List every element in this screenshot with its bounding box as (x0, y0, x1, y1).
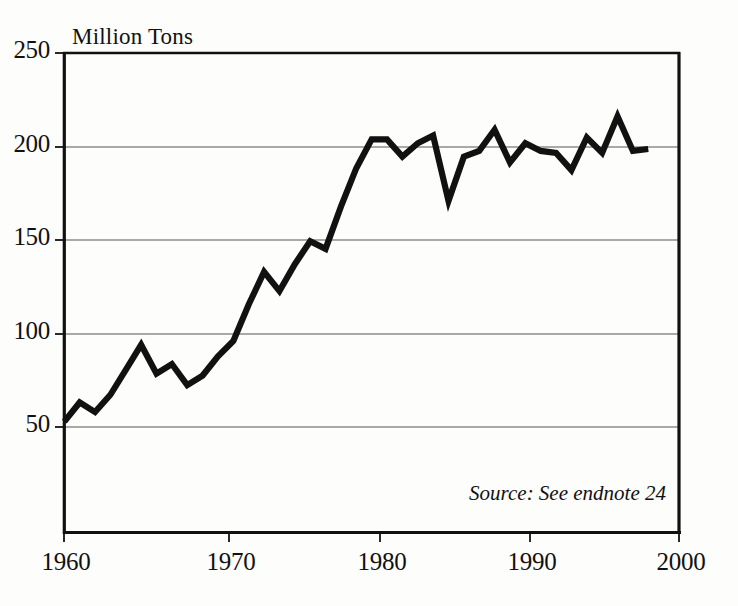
x-axis-label-1960: 1960 (11, 548, 121, 576)
line-chart: Million Tons (0, 0, 738, 606)
chart-frame (63, 52, 681, 534)
y-axis-label-50: 50 (0, 410, 50, 438)
y-axis-ticks (55, 53, 64, 427)
data-series-line (64, 116, 648, 421)
y-axis-label-100: 100 (0, 317, 50, 345)
gridlines (63, 147, 680, 427)
y-axis-label-200: 200 (0, 130, 50, 158)
x-axis-label-1990: 1990 (477, 548, 587, 576)
chart-plot-svg (0, 0, 738, 606)
y-axis-label-250: 250 (0, 36, 50, 64)
chart-page: Million Tons (0, 0, 738, 606)
x-axis-label-1970: 1970 (176, 548, 286, 576)
y-axis-label-150: 150 (0, 223, 50, 251)
source-note: Source: See endnote 24 (469, 481, 666, 506)
x-axis-label-1980: 1980 (327, 548, 437, 576)
x-axis-label-2000: 2000 (626, 548, 736, 576)
